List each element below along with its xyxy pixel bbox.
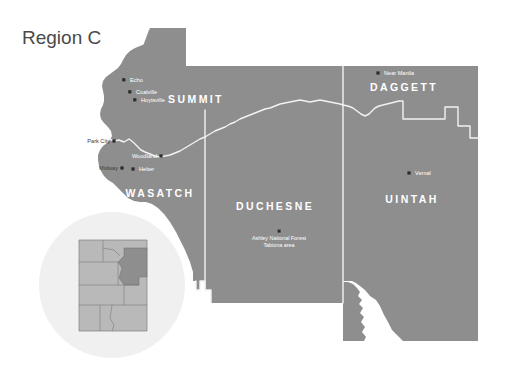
- city-dot: [407, 171, 410, 174]
- city-dot: [112, 139, 115, 142]
- city-label: Echo: [130, 77, 143, 83]
- city-label: Near Manila: [384, 70, 415, 76]
- city-dot: [122, 78, 125, 81]
- city-label: Vernal: [415, 170, 431, 176]
- city-label: Hoytsville: [141, 97, 165, 103]
- city-dot: [131, 167, 134, 170]
- page-title: Region C: [22, 27, 101, 48]
- city-dot: [159, 154, 162, 157]
- summit-northwest-edge: [143, 28, 186, 68]
- city-dot: [128, 90, 131, 93]
- poi-label-line-2: Tabiona area: [263, 242, 294, 248]
- city-label: Coalville: [136, 89, 157, 95]
- city-dot: [120, 166, 123, 169]
- city-label: Woodland: [132, 153, 157, 159]
- poi-dot: [278, 230, 281, 233]
- city-label: Midway: [99, 165, 118, 171]
- county-label-summit: SUMMIT: [168, 93, 224, 105]
- city-label: Park City: [87, 138, 110, 144]
- inset-locator-map: [39, 212, 185, 358]
- map-container: Echo Coalville Hoytsville Park City Wood…: [0, 0, 508, 382]
- county-label-daggett: DAGGETT: [370, 81, 438, 93]
- county-label-wasatch: WASATCH: [125, 187, 194, 199]
- city-dot: [133, 98, 136, 101]
- city-dot: [376, 71, 379, 74]
- city-label: Heber: [139, 166, 154, 172]
- poi-label-line-1: Ashley National Forest: [252, 235, 307, 241]
- county-label-duchesne: DUCHESNE: [236, 200, 314, 212]
- county-label-uintah: UINTAH: [385, 193, 438, 205]
- region-map: Echo Coalville Hoytsville Park City Wood…: [0, 0, 508, 382]
